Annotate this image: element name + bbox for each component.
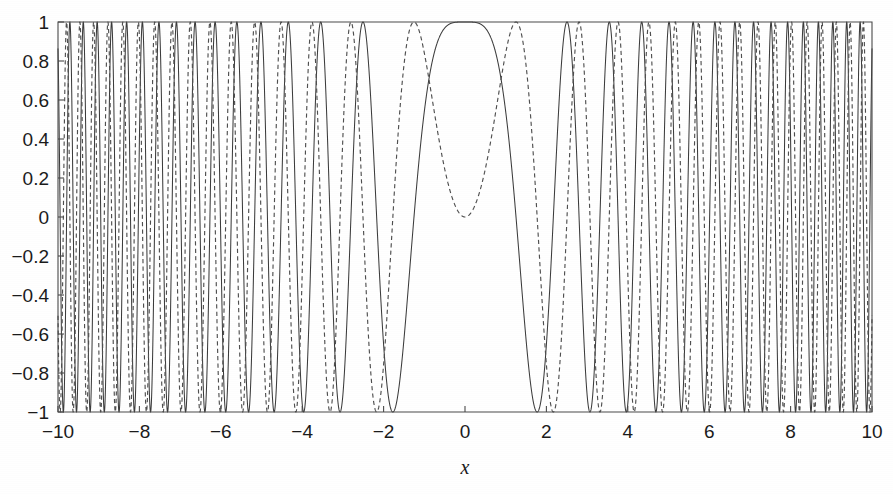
x-tick-label: −2 (373, 421, 395, 442)
chart-plot-area: −10−8−6−4−20246810 −1−0.8−0.6−0.4−0.200.… (0, 0, 893, 494)
x-tick-label: −4 (291, 421, 313, 442)
series-group (58, 22, 872, 412)
y-tick-label: 0.2 (23, 168, 49, 189)
y-tick-label: 0.6 (23, 90, 49, 111)
y-tick-label: −1 (27, 402, 49, 423)
y-axis: −1−0.8−0.6−0.4−0.200.20.40.60.81 (11, 12, 64, 423)
x-tick-label: −6 (210, 421, 232, 442)
x-tick-label: 8 (785, 421, 796, 442)
y-tick-label: −0.6 (11, 324, 49, 345)
series-line-dashed-chirp (58, 22, 872, 412)
x-tick-label: 0 (460, 421, 471, 442)
y-tick-label: 1 (38, 12, 49, 33)
x-axis-title: x (460, 456, 470, 478)
y-tick-label: −0.8 (11, 363, 49, 384)
x-tick-label: 6 (704, 421, 715, 442)
y-tick-label: 0 (38, 207, 49, 228)
y-tick-label: −0.4 (11, 285, 49, 306)
x-tick-label: 4 (623, 421, 634, 442)
x-tick-label: 2 (541, 421, 552, 442)
y-tick-label: −0.2 (11, 246, 49, 267)
y-tick-label: 0.4 (23, 129, 50, 150)
y-tick-label: 0.8 (23, 51, 49, 72)
x-tick-label: −8 (129, 421, 151, 442)
chart-figure: −10−8−6−4−20246810 −1−0.8−0.6−0.4−0.200.… (0, 0, 893, 494)
x-tick-label: 10 (861, 421, 882, 442)
x-tick-label: −10 (42, 421, 74, 442)
